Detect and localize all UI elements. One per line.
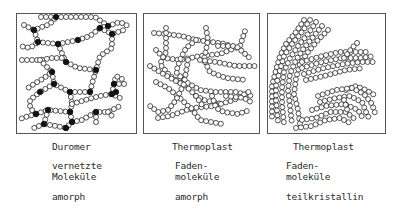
- monomer-bead: [328, 110, 333, 115]
- monomer-bead: [228, 94, 233, 99]
- monomer-bead: [333, 50, 338, 55]
- monomer-bead: [318, 100, 323, 105]
- monomer-bead: [199, 118, 204, 123]
- monomer-bead: [345, 107, 350, 112]
- monomer-bead: [319, 105, 324, 110]
- monomer-bead: [186, 35, 191, 40]
- monomer-bead: [185, 62, 190, 67]
- monomer-bead: [359, 114, 364, 119]
- monomer-bead: [289, 69, 294, 74]
- molecule-chains: [270, 18, 378, 131]
- monomer-bead: [309, 116, 314, 121]
- monomer-bead: [161, 108, 166, 113]
- crosslink-node: [31, 27, 37, 33]
- monomer-bead: [72, 90, 77, 95]
- monomer-bead: [116, 29, 121, 34]
- molecule-chains: [148, 26, 257, 127]
- monomer-bead: [119, 76, 124, 81]
- monomer-bead: [358, 50, 363, 55]
- monomer-bead: [320, 92, 325, 97]
- monomer-bead: [314, 61, 319, 66]
- monomer-bead: [324, 53, 329, 58]
- monomer-bead: [216, 73, 221, 78]
- monomer-bead: [164, 46, 169, 51]
- monomer-bead: [82, 66, 87, 71]
- monomer-bead: [215, 52, 220, 57]
- monomer-bead: [240, 110, 245, 115]
- monomer-bead: [92, 74, 97, 79]
- monomer-bead: [184, 67, 189, 72]
- monomer-bead: [82, 90, 87, 95]
- monomer-bead: [366, 114, 371, 119]
- monomer-bead: [324, 103, 329, 108]
- monomer-bead: [328, 72, 333, 77]
- monomer-bead: [298, 125, 303, 130]
- monomer-bead: [98, 93, 103, 98]
- monomer-bead: [294, 126, 299, 131]
- monomer-bead: [211, 40, 216, 45]
- monomer-bead: [321, 66, 326, 71]
- monomer-bead: [57, 124, 62, 129]
- monomer-bead: [300, 60, 305, 65]
- monomer-bead: [203, 50, 208, 55]
- monomer-bead: [74, 100, 79, 105]
- monomer-bead: [221, 44, 226, 49]
- monomer-bead: [225, 76, 230, 81]
- monomer-bead: [87, 67, 92, 72]
- monomer-bead: [122, 82, 127, 87]
- monomer-bead: [238, 95, 243, 100]
- crosslink-node: [51, 81, 57, 87]
- crosslink-node: [109, 31, 115, 37]
- monomer-bead: [237, 64, 242, 69]
- monomer-bead: [287, 98, 292, 103]
- monomer-bead: [363, 50, 368, 55]
- monomer-bead: [94, 95, 99, 100]
- monomer-bead: [176, 33, 181, 38]
- monomer-bead: [227, 62, 232, 67]
- monomer-bead: [309, 57, 314, 62]
- monomer-bead: [319, 54, 324, 59]
- monomer-bead: [233, 90, 238, 95]
- monomer-bead: [117, 95, 122, 100]
- crosslink-node: [93, 67, 99, 73]
- monomer-bead: [314, 55, 319, 60]
- thermoplast-crystalline-title: Thermoplast: [293, 141, 354, 152]
- monomer-bead: [239, 38, 244, 43]
- monomer-bead: [286, 83, 291, 88]
- monomer-bead: [64, 15, 69, 20]
- monomer-bead: [281, 54, 286, 59]
- crosslink-node: [75, 37, 81, 43]
- monomer-bead: [350, 61, 355, 66]
- monomer-bead: [96, 60, 101, 65]
- monomer-bead: [286, 88, 291, 93]
- panel-duromer: [17, 14, 137, 134]
- monomer-bead: [211, 98, 216, 103]
- monomer-bead: [304, 78, 309, 83]
- monomer-bead: [247, 99, 252, 104]
- monomer-bead: [235, 77, 240, 82]
- monomer-bead: [316, 67, 321, 72]
- monomer-bead: [68, 94, 73, 99]
- crosslink-node: [69, 119, 75, 125]
- monomer-bead: [40, 24, 45, 29]
- monomer-bead: [357, 66, 362, 71]
- monomer-bead: [156, 116, 161, 121]
- monomer-bead: [20, 44, 25, 49]
- monomer-bead: [176, 61, 181, 66]
- monomer-bead: [327, 97, 332, 102]
- monomer-bead: [160, 115, 165, 120]
- monomer-bead: [339, 87, 344, 92]
- crosslink-node: [87, 89, 93, 95]
- crosslink-node: [53, 14, 59, 20]
- monomer-bead: [53, 108, 58, 113]
- monomer-bead: [110, 42, 115, 47]
- monomer-bead: [198, 88, 203, 93]
- monomer-bead: [225, 110, 230, 115]
- crosslink-node: [93, 109, 99, 115]
- monomer-bead: [79, 15, 84, 20]
- monomer-bead: [308, 124, 313, 129]
- monomer-bead: [332, 96, 337, 101]
- monomer-bead: [70, 39, 75, 44]
- monomer-bead: [52, 123, 57, 128]
- monomer-bead: [89, 15, 94, 20]
